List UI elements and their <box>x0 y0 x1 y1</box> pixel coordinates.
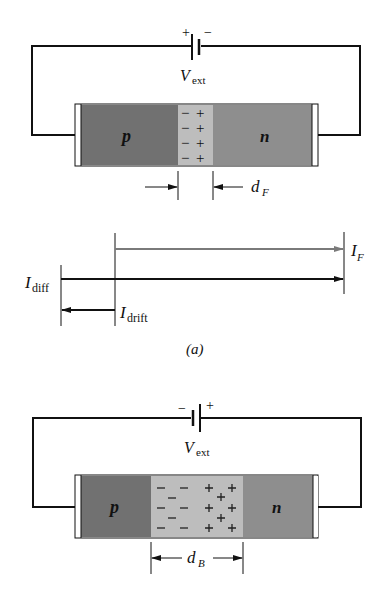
dB-sub: B <box>198 557 205 569</box>
vext-label: V <box>180 67 192 84</box>
n-label: n <box>272 498 281 517</box>
pn-junction-diagram: + − V ext p n − + − + − + − + <box>0 0 374 591</box>
contact-left <box>76 105 81 165</box>
dF-label: d <box>251 177 260 196</box>
IF-sub: F <box>356 251 364 263</box>
svg-text:−: − <box>181 135 189 151</box>
battery-icon <box>193 404 200 432</box>
n-label: n <box>260 127 269 146</box>
svg-text:+: + <box>196 105 204 121</box>
reverse-bias-circuit: − + V ext p n <box>33 398 361 574</box>
Idrift-sub: drift <box>127 311 148 325</box>
Idiff-sub: diff <box>32 281 49 295</box>
battery-plus: + <box>206 398 214 413</box>
current-diagram: I F I diff I drift (a) <box>24 232 364 358</box>
battery-minus: − <box>204 25 212 40</box>
svg-text:−: − <box>181 120 189 136</box>
battery-plus: + <box>182 25 190 40</box>
Idrift-label: I <box>119 303 127 322</box>
vext-sub: ext <box>196 446 209 458</box>
dF-dimension <box>145 171 243 200</box>
p-label: p <box>108 497 119 517</box>
forward-bias-circuit: + − V ext p n − + − + − + − + <box>32 25 360 200</box>
Idiff-label: I <box>24 273 32 292</box>
dF-sub: F <box>261 186 269 198</box>
vext-label: V <box>184 439 196 456</box>
battery-icon <box>192 34 199 60</box>
contact-right <box>313 476 318 537</box>
contact-left <box>76 476 81 537</box>
contact-right <box>312 105 317 165</box>
svg-text:−: − <box>181 150 189 166</box>
vext-sub: ext <box>192 74 205 86</box>
dB-label: d <box>187 548 196 567</box>
svg-text:+: + <box>196 135 204 151</box>
svg-text:+: + <box>196 150 204 166</box>
svg-text:+: + <box>196 120 204 136</box>
caption-a: (a) <box>186 341 204 358</box>
battery-minus: − <box>178 401 186 416</box>
svg-text:−: − <box>181 105 189 121</box>
p-label: p <box>120 126 131 146</box>
dB-dimension <box>151 542 243 574</box>
